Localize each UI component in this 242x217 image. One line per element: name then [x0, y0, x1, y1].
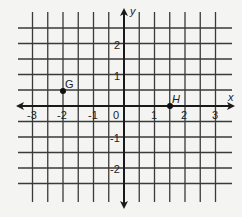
- x-axis-label: x: [227, 91, 234, 103]
- point-g-label: G: [65, 78, 74, 90]
- x-tick-label: 0: [113, 109, 119, 121]
- x-tick-label: 3: [212, 109, 218, 121]
- x-tick-label: -1: [88, 109, 98, 121]
- x-tick-label: 1: [151, 109, 157, 121]
- x-tick-label: -3: [27, 109, 37, 121]
- y-tick-label: -1: [110, 132, 120, 144]
- y-tick-label: 2: [114, 39, 120, 51]
- point-h-label: H: [172, 93, 180, 105]
- y-tick-label: 1: [114, 70, 120, 82]
- x-tick-label: -2: [57, 109, 67, 121]
- coordinate-plane: x y -3 -2 -1 0 1 2 3 2 1 -1 -2 G H: [0, 0, 242, 217]
- x-tick-label: 2: [181, 109, 187, 121]
- y-axis-label: y: [129, 5, 137, 17]
- y-tick-label: -2: [110, 163, 120, 175]
